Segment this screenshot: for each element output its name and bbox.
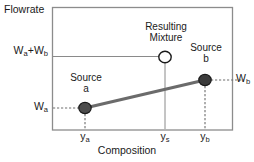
right-axis-label-wb: Wb (236, 73, 250, 85)
y-tick-label-wa-plus-wb: Wa+Wb (0, 45, 48, 57)
x-tick-label-ys: ys (150, 131, 180, 143)
x-tick-ys-sub: s (166, 135, 170, 144)
y-axis-title: Flowrate (4, 4, 44, 15)
y-tick-wa-plus-wb-var1: W (14, 44, 24, 56)
x-tick-label-yb: yb (190, 131, 220, 143)
marker-resulting-mixture (159, 51, 171, 63)
x-axis-title: Composition (0, 145, 254, 156)
x-tick-yb-sub: b (206, 135, 210, 144)
annotation-source-b-line2: b (180, 54, 232, 65)
y-tick-wa-plus-wb-sub2: b (44, 49, 48, 58)
y-tick-label-wa: Wa (0, 101, 48, 113)
flowrate-composition-figure: Flowrate Composition Wa+Wb Wa Wb ya ys y… (0, 0, 254, 162)
right-label-wb-sub: b (246, 77, 250, 86)
annotation-source-a-line2: a (60, 84, 112, 95)
annotation-resulting-mixture-line1: Resulting (145, 21, 187, 32)
annotation-source-a: Source a (60, 73, 112, 95)
marker-source-b (199, 74, 211, 85)
y-tick-wa-var: W (34, 100, 44, 112)
right-label-wb-var: W (236, 72, 246, 84)
annotation-source-b: Source b (180, 43, 232, 65)
marker-source-a (79, 102, 91, 113)
annotation-source-b-line1: Source (190, 42, 222, 53)
y-tick-wa-sub: a (44, 105, 48, 114)
y-tick-wa-plus-wb-var2: W (34, 44, 44, 56)
annotation-resulting-mixture: Resulting Mixture (131, 22, 201, 44)
x-tick-label-ya: ya (70, 131, 100, 143)
x-tick-ya-sub: a (86, 135, 90, 144)
annotation-source-a-line1: Source (70, 72, 102, 83)
